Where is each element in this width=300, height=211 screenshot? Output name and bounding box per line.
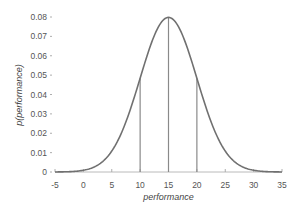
x-tick-label: 35 bbox=[277, 180, 287, 190]
y-tick-label: 0.01 bbox=[30, 148, 47, 158]
x-tick-label: 0 bbox=[81, 180, 86, 190]
x-tick-label: 15 bbox=[164, 180, 174, 190]
x-tick-label: 20 bbox=[192, 180, 202, 190]
x-tick-label: 30 bbox=[249, 180, 259, 190]
y-tick-label: 0.04 bbox=[30, 90, 47, 100]
y-tick-label: 0.02 bbox=[30, 128, 47, 138]
y-tick-label: 0.08 bbox=[30, 12, 47, 22]
x-tick-label: 5 bbox=[109, 180, 114, 190]
y-tick-label: 0 bbox=[42, 167, 47, 177]
y-axis-title: p(performance) bbox=[14, 64, 24, 127]
normal-distribution-chart: 00.010.020.030.040.050.060.070.08 -50510… bbox=[0, 0, 300, 211]
y-tick-label: 0.06 bbox=[30, 51, 47, 61]
y-tick-label: 0.05 bbox=[30, 70, 47, 80]
y-axis-ticks: 00.010.020.030.040.050.060.070.08 bbox=[30, 12, 52, 177]
y-tick-label: 0.03 bbox=[30, 109, 47, 119]
sd-reference-lines bbox=[140, 17, 197, 172]
x-tick-label: 25 bbox=[221, 180, 231, 190]
x-tick-label: -5 bbox=[51, 180, 59, 190]
y-tick-label: 0.07 bbox=[30, 31, 47, 41]
x-axis-title: performance bbox=[142, 192, 194, 202]
x-tick-label: 10 bbox=[135, 180, 145, 190]
